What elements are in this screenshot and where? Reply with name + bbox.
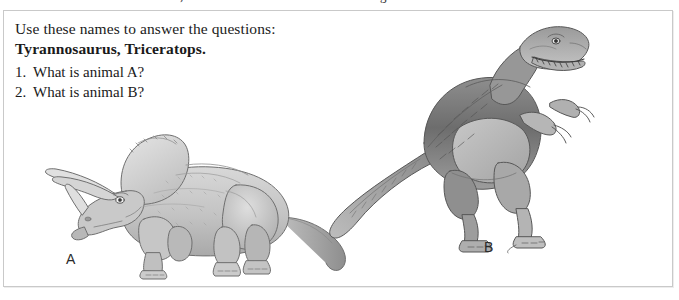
clipped-text-above: . , . g	[0, 0, 679, 9]
worksheet-panel: Use these names to answer the questions:…	[3, 10, 673, 287]
tyrannosaurus-illustration	[320, 23, 620, 273]
illustration-area: A B	[4, 11, 673, 287]
figure-label-a: A	[66, 251, 76, 267]
figure-label-b: B	[484, 239, 494, 255]
